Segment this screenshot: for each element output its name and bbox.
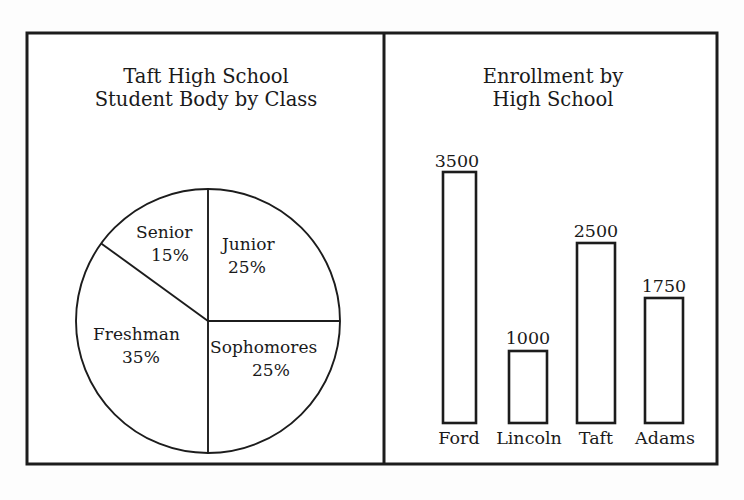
bar-value-taft: 2500 [574,221,619,241]
pie-title-line1: Taft High School [123,65,288,88]
bar-value-ford: 3500 [435,151,480,171]
bar-value-adams: 1750 [642,276,687,296]
pie-slice-pct-freshman: 35% [122,347,160,367]
figure-svg: Taft High School Student Body by Class S… [0,0,744,500]
pie-title-line2: Student Body by Class [95,88,318,111]
bar-lincoln [509,351,547,423]
bar-title-line1: Enrollment by [483,65,623,88]
bar-taft [577,243,615,423]
bar-label-adams: Adams [634,428,695,448]
bar-label-taft: Taft [579,428,613,448]
pie-slice-pct-senior: 15% [151,245,189,265]
bar-label-lincoln: Lincoln [496,428,562,448]
pie-slice-label-junior: Junior [220,234,275,254]
pie-slice-label-senior: Senior [136,222,193,242]
bar-adams [645,298,683,423]
pie-slice-label-sophomores: Sophomores [210,337,317,357]
bar-value-lincoln: 1000 [506,328,551,348]
bar-group-taft: 2500 Taft [574,221,619,448]
bar-ford [443,172,476,423]
figure-container: Taft High School Student Body by Class S… [0,0,744,500]
pie-slice-pct-sophomores: 25% [252,360,290,380]
pie-slice-pct-junior: 25% [228,257,266,277]
bar-label-ford: Ford [438,428,479,448]
pie-slice-label-freshman: Freshman [93,324,180,344]
bar-title-line2: High School [492,88,613,111]
